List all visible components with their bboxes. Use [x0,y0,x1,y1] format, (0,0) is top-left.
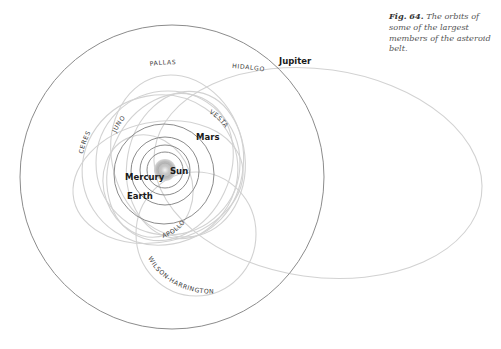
figure-caption: Fig. 64. The orbits of some of the large… [389,11,501,54]
hidalgo-orbit [140,47,496,299]
jupiter-label: Jupiter [278,56,312,66]
earth-label: Earth [127,191,153,201]
figure-number: Fig. 64. [389,11,424,21]
ceres-label: CERES [77,129,92,154]
mercury-label: Mercury [125,172,165,182]
pallas-label: PALLAS [149,58,176,67]
hidalgo-label: HIDALGO [232,62,265,72]
sun-label: Sun [170,166,188,176]
mars-label: Mars [196,132,219,142]
wilson-harrington-label: WILSON-HARRINGTON [147,255,214,295]
